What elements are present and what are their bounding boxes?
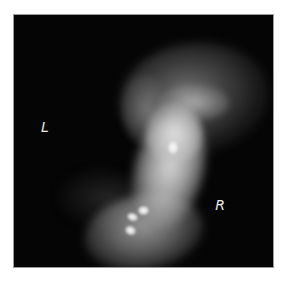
central-column-region <box>121 103 218 236</box>
bright-spot <box>126 211 139 222</box>
bright-spot <box>124 224 138 237</box>
bright-spot <box>168 141 178 154</box>
upper-bright-band <box>159 85 229 121</box>
scan-image-panel: L R <box>14 15 273 267</box>
lower-lobe-region <box>78 185 209 267</box>
dim-left-region <box>59 170 139 225</box>
left-orientation-marker: L <box>41 120 49 134</box>
upper-left-region <box>122 75 167 145</box>
bright-spot <box>138 206 149 215</box>
upper-diffuse-region <box>112 33 273 163</box>
central-column-top <box>146 103 202 163</box>
right-orientation-marker: R <box>215 198 225 212</box>
